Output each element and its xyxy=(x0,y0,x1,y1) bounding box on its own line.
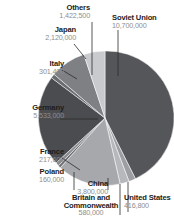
pie-chart-figure: Others 1,422,500 Soviet Union 10,700,000… xyxy=(0,0,174,222)
label-italy: Italy 301,400 xyxy=(6,60,64,75)
label-britain-commonwealth-value: 580,000 xyxy=(62,209,120,216)
label-germany-value: 5,533,000 xyxy=(0,112,64,119)
label-japan-value: 2,120,000 xyxy=(14,34,76,41)
label-britain-commonwealth-name: Britain and Commonwealth xyxy=(62,194,120,209)
label-soviet-union: Soviet Union 10,700,000 xyxy=(112,14,174,29)
label-united-states-value: 416,800 xyxy=(124,202,174,209)
label-poland-value: 160,000 xyxy=(4,176,64,183)
label-italy-value: 301,400 xyxy=(6,68,64,75)
label-poland: Poland 160,000 xyxy=(4,168,64,183)
label-germany: Germany 5,533,000 xyxy=(0,104,64,119)
label-france-value: 217,600 xyxy=(6,156,64,163)
label-britain-commonwealth: Britain and Commonwealth 580,000 xyxy=(62,194,120,217)
label-soviet-union-value: 10,700,000 xyxy=(112,22,174,29)
label-others: Others 1,422,500 xyxy=(28,4,90,19)
label-japan: Japan 2,120,000 xyxy=(14,26,76,41)
label-united-states: United States 416,800 xyxy=(124,194,174,209)
label-france: France 217,600 xyxy=(6,148,64,163)
label-others-value: 1,422,500 xyxy=(28,12,90,19)
